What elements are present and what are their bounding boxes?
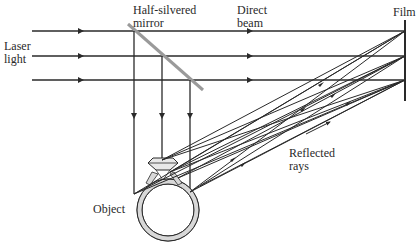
label-half-silvered-mirror: Half-silvered mirror xyxy=(133,4,196,30)
label-laser-light: Laser light xyxy=(4,40,31,66)
label-object: Object xyxy=(93,203,125,216)
reflected-arrow xyxy=(306,122,330,134)
label-film: Film xyxy=(393,6,416,19)
hologram-diagram xyxy=(0,0,420,244)
label-direct-beam: Direct beam xyxy=(237,4,267,30)
laser-beams xyxy=(32,28,405,83)
label-reflected-rays: Reflected rays xyxy=(289,147,335,173)
